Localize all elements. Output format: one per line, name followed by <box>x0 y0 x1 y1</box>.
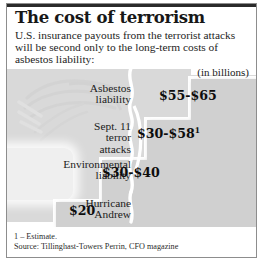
value-label-environmental: $30-$40 <box>102 166 160 179</box>
infographic-the-cost-of-terrorism: The cost of terrorism U.S. insurance pay… <box>0 0 263 262</box>
value-text: $55-$65 <box>159 88 217 103</box>
category-label-sept-11: Sept. 11 terror attacks <box>94 121 131 155</box>
footnote-source: Source: Tillinghast-Towers Perrin, CFO m… <box>14 242 250 252</box>
category-line: Sept. 11 <box>94 120 131 132</box>
title-top-rule <box>7 4 256 7</box>
value-label-asbestos: $55-$65 <box>159 89 217 102</box>
chart-plate: (in billions) Asbestos liability Sept. 1… <box>7 62 256 227</box>
page-title: The cost of terrorism <box>15 8 248 27</box>
subtitle: U.S. insurance payouts from the terroris… <box>15 29 248 66</box>
value-label-hurricane-andrew: $20 <box>69 204 95 217</box>
category-line: Asbestos <box>90 82 131 94</box>
category-label-asbestos: Asbestos liability <box>90 83 131 106</box>
value-text: $30-$58 <box>137 126 195 141</box>
value-text: $20 <box>69 203 95 218</box>
category-line: attacks <box>99 143 131 155</box>
category-labels: Asbestos liability Sept. 11 terror attac… <box>7 62 256 227</box>
footnote-marker: 1 <box>195 126 200 135</box>
footnote-estimate: 1 – Estimate. <box>14 232 250 242</box>
footnotes: 1 – Estimate. Source: Tillinghast-Towers… <box>14 232 250 252</box>
category-line: Andrew <box>94 208 131 220</box>
category-line: liability <box>96 93 131 105</box>
value-text: $30-$40 <box>102 165 160 180</box>
value-label-sept-11: $30-$581 <box>137 127 200 140</box>
category-line: terror <box>106 131 131 143</box>
header: The cost of terrorism U.S. insurance pay… <box>7 4 256 69</box>
